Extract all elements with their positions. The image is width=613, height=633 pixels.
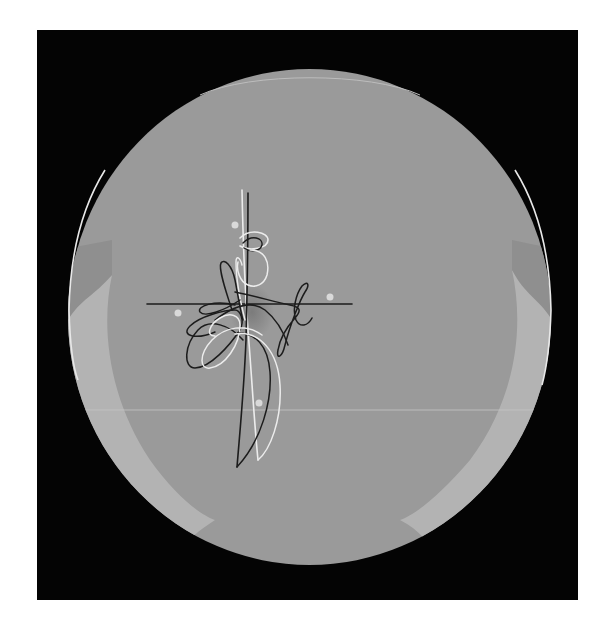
dot (327, 294, 334, 301)
dot (232, 222, 239, 229)
dot (175, 310, 182, 317)
dot (256, 400, 263, 407)
plate-photo (0, 0, 613, 633)
plate (40, 69, 580, 600)
